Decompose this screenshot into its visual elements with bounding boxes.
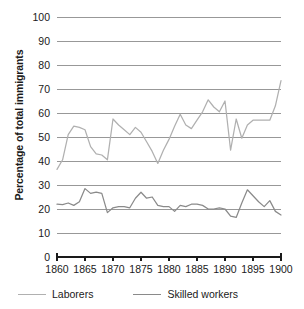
legend-label-skilled-workers: Skilled workers [167,288,238,300]
legend-item-skilled-workers: Skilled workers [133,288,238,300]
x-tick-label-1875: 1875 [129,263,153,275]
y-tick-label-50: 50 [38,131,50,143]
y-tick-label-0: 0 [44,251,50,263]
y-tick-label-100: 100 [32,11,50,23]
x-tick-label-1865: 1865 [73,263,97,275]
y-tick-labels-group: 0102030405060708090100 [32,11,50,263]
y-tick-label-90: 90 [38,35,50,47]
legend-item-laborers: Laborers [18,288,93,300]
y-tick-label-40: 40 [38,155,50,167]
y-tick-label-20: 20 [38,203,50,215]
line-chart-plot: 0102030405060708090100 18601865187018751… [0,0,304,280]
y-tick-label-30: 30 [38,179,50,191]
y-tick-label-10: 10 [38,227,50,239]
x-tick-label-1895: 1895 [241,263,265,275]
chart-container: Percentage of total immigrants 010203040… [0,0,304,309]
x-tick-label-1880: 1880 [157,263,181,275]
legend-swatch-laborers [18,294,46,295]
series-line-laborers [57,81,281,170]
x-tick-label-1870: 1870 [101,263,125,275]
y-tick-label-80: 80 [38,59,50,71]
x-tick-label-1860: 1860 [45,263,69,275]
legend-label-laborers: Laborers [52,288,93,300]
chart-legend: Laborers Skilled workers [0,283,304,305]
y-tick-label-60: 60 [38,107,50,119]
x-tick-label-1900: 1900 [269,263,293,275]
x-axis-group [57,253,281,261]
series-lines-group [57,81,281,218]
series-line-skilled-workers [57,189,281,218]
legend-swatch-skilled-workers [133,294,161,295]
x-tick-labels-group: 186018651870187518801885189018951900 [45,263,293,275]
y-tick-label-70: 70 [38,83,50,95]
x-tick-label-1890: 1890 [213,263,237,275]
x-tick-label-1885: 1885 [185,263,209,275]
